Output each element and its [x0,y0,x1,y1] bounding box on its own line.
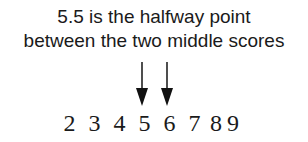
score: 7 [182,110,207,137]
score-list: 23456789 [57,110,241,137]
score: 4 [107,110,132,137]
arrow-to-5 [136,62,148,106]
score: 3 [82,110,107,137]
arrow-to-6 [161,62,173,106]
score: 8 [207,110,225,137]
score: 6 [157,110,182,137]
score: 5 [132,110,157,137]
score: 2 [57,110,82,137]
score: 9 [225,110,241,137]
